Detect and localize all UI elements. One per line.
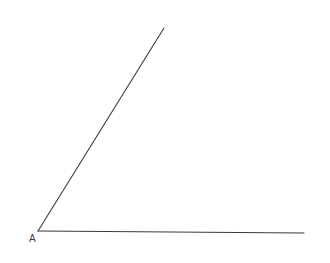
angle-figure-canvas: A	[0, 0, 330, 263]
vertex-label-a: A	[29, 234, 36, 244]
upper-ray-line	[38, 28, 164, 231]
base-ray-line	[38, 231, 304, 233]
angle-diagram-svg	[0, 0, 330, 263]
